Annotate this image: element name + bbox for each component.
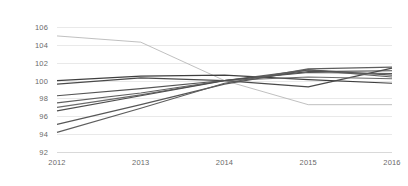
series-lines [57, 27, 392, 152]
x-tick-label: 2016 [383, 158, 400, 167]
y-tick-label: 104 [0, 40, 48, 49]
x-axis-line [57, 152, 392, 153]
series-line [57, 36, 392, 105]
y-tick-label: 94 [0, 130, 48, 139]
x-tick-label: 2015 [300, 158, 317, 167]
y-tick-label: 92 [0, 148, 48, 157]
y-tick-label: 106 [0, 23, 48, 32]
y-tick-label: 102 [0, 58, 48, 67]
x-tick-label: 2013 [132, 158, 149, 167]
plot-area [57, 27, 392, 152]
line-chart: 92949698100102104106 2012201320142015201… [0, 0, 408, 186]
y-tick-label: 96 [0, 112, 48, 121]
x-tick-label: 2012 [48, 158, 65, 167]
y-tick-label: 100 [0, 76, 48, 85]
x-tick-label: 2014 [216, 158, 233, 167]
y-tick-label: 98 [0, 94, 48, 103]
